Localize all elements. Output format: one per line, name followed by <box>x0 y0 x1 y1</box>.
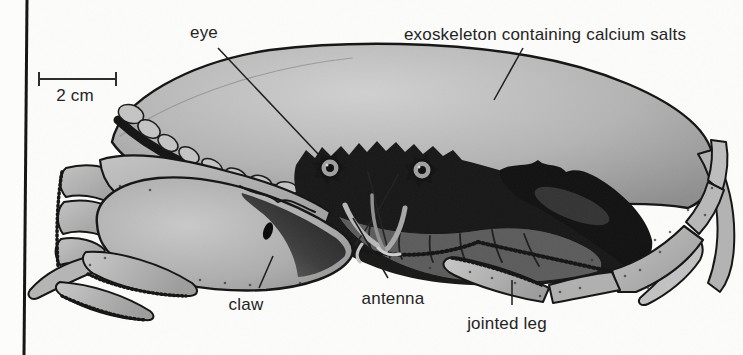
label-claw: claw <box>229 296 264 315</box>
label-exoskeleton: exoskeleton containing calcium salts <box>404 26 686 45</box>
scale-bar-label: 2 cm <box>56 87 94 106</box>
diagram-page: 2 cm eye exoskeleton containing calcium … <box>0 0 743 355</box>
label-eye: eye <box>190 24 218 43</box>
label-antenna: antenna <box>362 290 425 309</box>
label-jointed-leg: jointed leg <box>467 315 547 334</box>
page-border-line <box>24 0 27 355</box>
